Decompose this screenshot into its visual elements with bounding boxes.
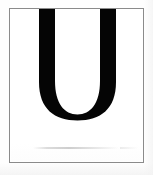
letter-u-glyph: [10, 9, 143, 162]
image-canvas: U Bold sans-serif capital letter U insid…: [0, 0, 153, 175]
glyph-stage: [10, 9, 143, 162]
letter-u-path: [39, 9, 116, 121]
